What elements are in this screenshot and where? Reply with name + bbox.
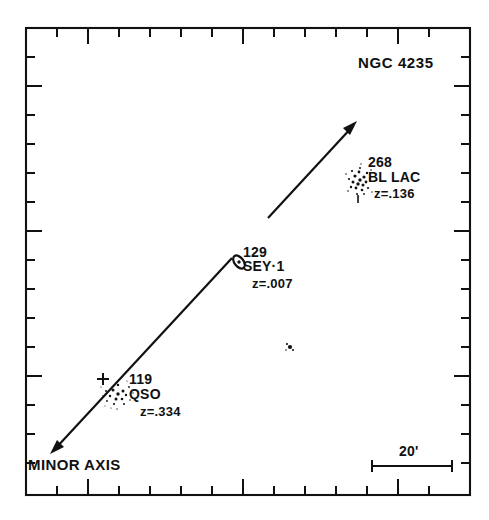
object-label-bl-lac-redshift: z=.136 bbox=[374, 187, 415, 200]
page-title: NGC 4235 bbox=[358, 54, 434, 71]
object-label-sey-1-redshift: z=.007 bbox=[252, 277, 293, 290]
scale-bar-label: 20' bbox=[399, 443, 419, 459]
object-label-qso-id: 119 bbox=[129, 372, 152, 386]
object-label-qso-redshift: z=.334 bbox=[140, 405, 181, 418]
scale-bar bbox=[372, 460, 452, 472]
object-label-bl-lac-name: BL LAC bbox=[368, 170, 420, 184]
object-label-qso-name: QSO bbox=[129, 387, 161, 401]
small-dot-marker bbox=[285, 343, 294, 351]
object-label-sey-1-name: SEY·1 bbox=[243, 259, 284, 273]
object-label-bl-lac-id: 268 bbox=[368, 155, 392, 169]
minor-axis-arrow bbox=[50, 121, 357, 454]
plus-marker bbox=[97, 373, 109, 385]
figure-canvas: NGC 4235 268 BL LAC z=.136 129 SEY·1 z=.… bbox=[0, 0, 489, 520]
minor-axis-label: MINOR AXIS bbox=[28, 456, 121, 473]
